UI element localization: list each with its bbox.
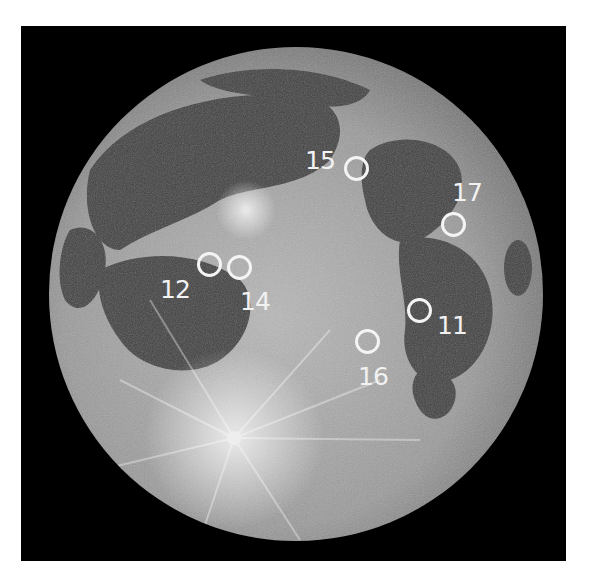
landing-site-label-17: 17 [452,180,482,205]
landing-site-label-12: 12 [160,277,190,302]
landing-site-label-14: 14 [240,289,270,314]
landing-site-marker-11 [407,298,432,323]
landing-site-marker-17 [441,212,466,237]
landing-site-marker-15 [344,156,369,181]
landing-site-label-11: 11 [437,313,467,338]
landing-site-marker-14 [227,255,252,280]
landing-site-label-16: 16 [358,364,388,389]
moon-image [0,0,591,572]
landing-site-label-15: 15 [305,148,335,173]
landing-site-marker-12 [197,252,222,277]
landing-site-marker-16 [355,329,380,354]
